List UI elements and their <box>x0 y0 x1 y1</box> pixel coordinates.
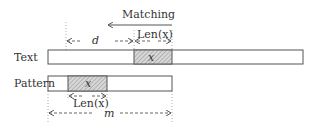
d-label: d <box>92 35 99 46</box>
len-top-label: Len(x) <box>137 29 173 40</box>
pattern-row-label: Pattern <box>14 78 55 89</box>
pattern-bar <box>48 76 172 91</box>
text-row-label: Text <box>14 52 38 63</box>
matching-label: Matching <box>122 9 175 20</box>
text-segment-label: x <box>148 52 154 63</box>
m-label: m <box>104 108 114 119</box>
text-bar <box>48 50 303 64</box>
pattern-segment-label: x <box>85 78 91 89</box>
